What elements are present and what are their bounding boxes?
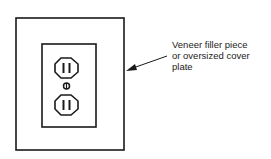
callout-line-3: plate [172,61,250,72]
callout-line-2: or oversized cover [172,50,250,61]
callout-arrow-icon [126,56,167,71]
top-receptacle-icon [55,58,78,78]
bottom-receptacle-icon [55,95,78,115]
outlet-diagram [0,0,271,159]
screw-icon [64,83,70,89]
callout-line-1: Veneer filler piece [172,39,250,50]
callout-label: Veneer filler piece or oversized cover p… [172,39,250,72]
veneer-filler-piece [16,18,124,150]
